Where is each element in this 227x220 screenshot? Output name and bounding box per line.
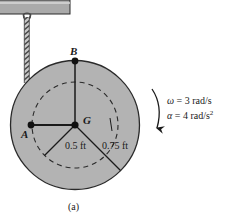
figure-caption: (a) [68,202,79,212]
dimension-label-inner-radius: 0.5 ft [65,141,86,151]
point-marker-A [28,122,35,129]
point-marker-G [71,121,78,128]
ceiling-support [0,0,70,14]
angular-velocity-annotation: ω = 3 rad/s [167,96,212,106]
omega-symbol: ω [167,95,174,106]
cable [24,17,29,83]
alpha-exponent: 2 [210,109,214,117]
angular-acceleration-annotation: α = 4 rad/s2 [167,110,213,121]
alpha-value: = 4 rad/s [172,110,210,121]
omega-value: = 3 rad/s [174,95,212,106]
point-label-B: B [70,46,77,57]
point-marker-B [72,58,79,65]
point-label-G: G [83,115,91,126]
point-label-A: A [21,129,28,140]
rotation-direction-arrow [152,89,159,128]
mechanics-figure: B A G 0.5 ft 0.75 ft ω = 3 rad/s α = 4 r… [0,0,227,220]
dimension-label-outer-radius: 0.75 ft [102,141,128,151]
